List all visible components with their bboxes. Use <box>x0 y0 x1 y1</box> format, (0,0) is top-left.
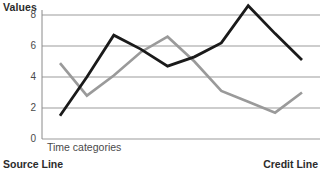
chart-figure: Values 8 6 4 2 0 Time categories Source … <box>0 0 326 171</box>
x-axis-title: Time categories <box>47 141 121 153</box>
caption-credit-line: Credit Line <box>263 158 318 170</box>
credit-line-series <box>60 37 302 113</box>
source-line-series <box>60 6 302 116</box>
gridlines <box>42 15 320 139</box>
caption-source-line: Source Line <box>3 158 63 170</box>
